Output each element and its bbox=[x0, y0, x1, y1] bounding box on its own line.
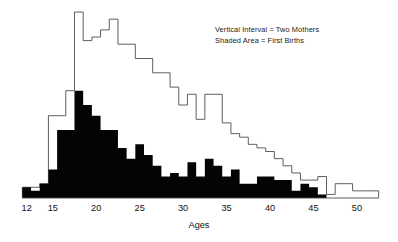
x-tick-label: 30 bbox=[178, 203, 188, 213]
legend-entry-vertical-interval: Vertical Interval = Two Mothers bbox=[215, 25, 319, 34]
x-tick-label: 50 bbox=[352, 203, 362, 213]
x-axis-group: 121520253035404550 Ages bbox=[22, 198, 379, 230]
histogram-chart: 121520253035404550 Ages Vertical Interva… bbox=[0, 0, 398, 242]
legend-group: Vertical Interval = Two Mothers Shaded A… bbox=[215, 25, 319, 45]
x-tick-label: 35 bbox=[221, 203, 231, 213]
x-tick-label: 40 bbox=[265, 203, 275, 213]
x-tick-label: 15 bbox=[48, 203, 58, 213]
x-tick-label: 25 bbox=[135, 203, 145, 213]
x-tick-label: 20 bbox=[91, 203, 101, 213]
first-births-filled bbox=[22, 91, 378, 198]
filled-series-group bbox=[22, 91, 378, 198]
legend-entry-shaded-area: Shaded Area = First Births bbox=[215, 36, 304, 45]
x-tick-label: 12 bbox=[22, 203, 32, 213]
chart-canvas: 121520253035404550 Ages Vertical Interva… bbox=[0, 0, 398, 242]
x-axis-title: Ages bbox=[189, 220, 210, 230]
x-tick-label: 45 bbox=[308, 203, 318, 213]
x-tick-labels: 121520253035404550 bbox=[22, 203, 362, 213]
